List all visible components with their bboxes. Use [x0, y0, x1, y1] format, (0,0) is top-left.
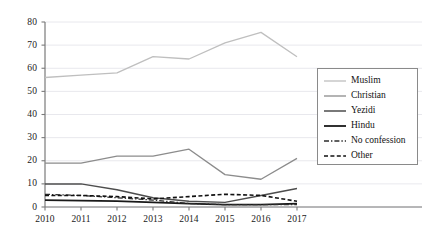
legend-item-christian[interactable]: Christian	[318, 88, 417, 103]
y-tick-label-50: 50	[13, 86, 37, 96]
x-tick-label-2012: 2012	[97, 214, 137, 225]
legend-item-yezidi[interactable]: Yezidi	[318, 103, 417, 118]
y-tick-label-0: 0	[13, 202, 37, 212]
y-tick-label-20: 20	[13, 155, 37, 165]
legend-swatch-other	[324, 151, 346, 161]
legend-item-no-confession[interactable]: No confession	[318, 133, 417, 148]
x-tick-label-2013: 2013	[133, 214, 173, 225]
legend-swatch-no-confession	[324, 136, 346, 146]
legend-label-yezidi: Yezidi	[351, 105, 375, 116]
line-chart: 80706050403020100 2010201120122013201420…	[0, 0, 422, 242]
legend-label-no-confession: No confession	[351, 135, 406, 146]
x-tick-label-2017: 2017	[277, 214, 317, 225]
y-tick-label-30: 30	[13, 132, 37, 142]
x-tick-label-2014: 2014	[169, 214, 209, 225]
x-tick-label-2016: 2016	[241, 214, 281, 225]
series-line-yezidi	[45, 184, 297, 203]
legend-swatch-hindu	[324, 121, 346, 131]
y-tick-label-80: 80	[13, 17, 37, 27]
legend-label-other: Other	[351, 150, 373, 161]
legend-label-muslim: Muslim	[351, 75, 381, 86]
x-tick-label-2015: 2015	[205, 214, 245, 225]
y-tick-label-60: 60	[13, 63, 37, 73]
legend-swatch-christian	[324, 91, 346, 101]
series-line-christian	[45, 149, 297, 179]
y-tick-label-10: 10	[13, 178, 37, 188]
legend-item-other[interactable]: Other	[318, 148, 417, 163]
y-tick-label-70: 70	[13, 40, 37, 50]
x-tick-label-2010: 2010	[25, 214, 65, 225]
legend-item-hindu[interactable]: Hindu	[318, 118, 417, 133]
x-tick-label-2011: 2011	[61, 214, 101, 225]
legend-item-muslim[interactable]: Muslim	[318, 73, 417, 88]
y-tick-label-40: 40	[13, 109, 37, 119]
legend-label-hindu: Hindu	[351, 120, 375, 131]
legend-label-christian: Christian	[351, 90, 386, 101]
legend-swatch-muslim	[324, 76, 346, 86]
chart-legend: MuslimChristianYezidiHinduNo confessionO…	[317, 68, 418, 165]
legend-swatch-yezidi	[324, 106, 346, 116]
series-line-muslim	[45, 32, 297, 77]
